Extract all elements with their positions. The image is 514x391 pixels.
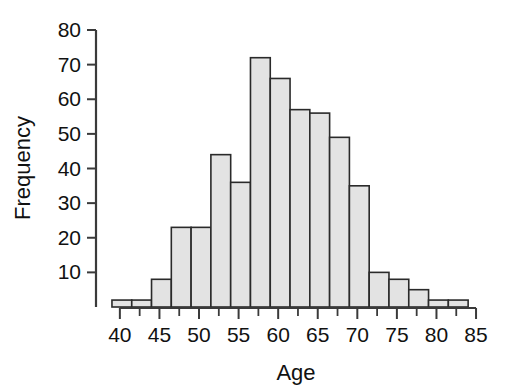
y-axis-tick-label: 20 <box>58 226 81 249</box>
histogram-bar <box>152 279 172 307</box>
x-axis-tick-label: 55 <box>227 323 250 346</box>
y-axis-tick-label: 10 <box>58 260 81 283</box>
histogram-bar <box>290 110 310 307</box>
y-axis-tick-label: 70 <box>58 53 81 76</box>
x-axis-minor-ticks <box>140 308 457 316</box>
histogram-bar <box>132 300 152 307</box>
x-axis-group: 40455055606570758085 <box>108 308 488 346</box>
histogram-bar <box>389 279 409 307</box>
histogram-bar <box>231 182 251 307</box>
y-axis-tick-label: 80 <box>58 18 81 41</box>
y-axis-tick-label: 40 <box>58 157 81 180</box>
x-axis-tick-label: 60 <box>266 323 289 346</box>
x-axis-tick-label: 50 <box>187 323 210 346</box>
histogram-bar <box>429 300 449 307</box>
x-axis-tick-label: 70 <box>346 323 369 346</box>
y-axis-group: 1020304050607080 <box>58 18 96 307</box>
x-axis-tick-label: 65 <box>306 323 329 346</box>
y-axis-tick-label: 60 <box>58 87 81 110</box>
histogram-bar <box>270 78 290 307</box>
histogram-bar <box>250 58 270 307</box>
x-axis-tick-label: 45 <box>148 323 171 346</box>
x-axis-tick-labels: 40455055606570758085 <box>108 323 488 346</box>
bars-group <box>112 58 468 307</box>
histogram-bar <box>112 300 132 307</box>
histogram-bar <box>369 272 389 307</box>
histogram-bar <box>211 155 231 307</box>
x-axis-title: Age <box>276 360 315 385</box>
x-axis-tick-label: 40 <box>108 323 131 346</box>
y-axis-tick-labels: 1020304050607080 <box>58 18 81 283</box>
histogram-chart: 1020304050607080 40455055606570758085 Ag… <box>0 0 514 391</box>
y-axis-title: Frequency <box>10 116 35 220</box>
histogram-bar <box>409 290 429 307</box>
histogram-bar <box>171 227 191 307</box>
y-axis-ticks <box>87 30 96 272</box>
histogram-bar <box>310 113 330 307</box>
histogram-bar <box>448 300 468 307</box>
histogram-bar <box>191 227 211 307</box>
x-axis-tick-label: 80 <box>425 323 448 346</box>
chart-canvas: 1020304050607080 40455055606570758085 Ag… <box>0 0 514 391</box>
histogram-bar <box>349 186 369 307</box>
y-axis-tick-label: 30 <box>58 191 81 214</box>
histogram-bar <box>330 137 350 307</box>
x-axis-tick-label: 75 <box>385 323 408 346</box>
x-axis-tick-label: 85 <box>464 323 487 346</box>
y-axis-tick-label: 50 <box>58 122 81 145</box>
